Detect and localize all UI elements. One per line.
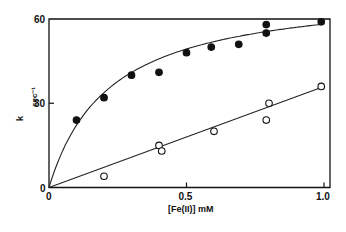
open-data-point — [318, 83, 325, 90]
filled-data-point — [156, 69, 163, 76]
open-data-point — [211, 128, 218, 135]
y-axis-label: k sec⁻¹ — [15, 87, 39, 121]
y-axis-label-k: k — [15, 115, 25, 121]
filled-data-point — [235, 41, 242, 48]
x-tick-label: 0 — [46, 191, 52, 202]
filled-data-point — [183, 49, 190, 56]
y-tick-label: 60 — [34, 14, 46, 25]
y-tick-label: 0 — [40, 183, 46, 194]
filled-data-point — [318, 19, 325, 26]
open-data-point — [101, 173, 108, 180]
filled-data-point — [73, 117, 80, 124]
filled-data-point — [101, 94, 108, 101]
plot-frame — [49, 19, 330, 188]
open-data-point — [263, 117, 270, 124]
data-points — [73, 19, 324, 180]
filled-data-point — [208, 44, 215, 51]
filled-data-point — [263, 21, 270, 28]
fit-curves — [49, 24, 321, 187]
open-data-point — [266, 100, 273, 107]
chart: 00.51.003060 [Fe(II)] mM k sec⁻¹ — [0, 0, 346, 232]
fit-line — [49, 24, 321, 187]
filled-data-point — [128, 72, 135, 79]
x-tick-label: 1.0 — [316, 191, 330, 202]
axes-box — [49, 19, 330, 188]
fit-line — [49, 87, 321, 187]
axis-ticks: 00.51.003060 — [34, 14, 330, 202]
x-tick-label: 0.5 — [179, 191, 193, 202]
open-data-point — [158, 148, 165, 155]
x-axis-label: [Fe(II)] mM — [168, 204, 214, 214]
y-axis-label-unit: sec⁻¹ — [30, 87, 39, 107]
filled-data-point — [263, 30, 270, 37]
